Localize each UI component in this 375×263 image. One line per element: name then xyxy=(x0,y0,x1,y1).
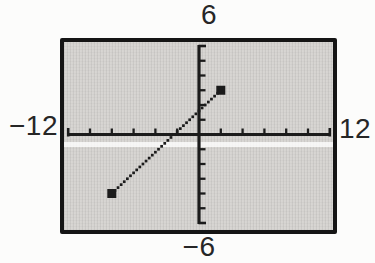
segment-dot xyxy=(198,110,201,113)
segment-dot xyxy=(157,148,160,151)
segment-dot xyxy=(185,121,188,124)
segment-dot xyxy=(154,151,157,154)
segment-dot xyxy=(176,130,179,133)
ymin-label: −6 xyxy=(175,233,223,261)
segment-dot xyxy=(170,136,173,139)
segment-dot xyxy=(120,183,123,186)
xmin-label: −12 xyxy=(6,112,58,140)
figure: 6 −12 12 −6 xyxy=(0,0,375,263)
segment-dot xyxy=(207,101,210,104)
segment-dot xyxy=(138,166,141,169)
segment-dot xyxy=(195,113,198,116)
ymax-label: 6 xyxy=(189,1,229,29)
segment-dot xyxy=(135,169,138,172)
segment-dot xyxy=(148,157,151,160)
segment-dot xyxy=(142,163,145,166)
endpoint-marker xyxy=(216,86,225,95)
segment-dot xyxy=(204,104,207,107)
segment-dot xyxy=(179,127,182,130)
segment-dot xyxy=(191,115,194,118)
endpoint-marker xyxy=(107,189,116,198)
segment-dot xyxy=(117,186,120,189)
segment-dot xyxy=(163,142,166,145)
segment-dot xyxy=(167,139,170,142)
segment-dot xyxy=(160,145,163,148)
xmax-label: 12 xyxy=(339,115,375,143)
segment-dot xyxy=(123,180,126,183)
segment-dot xyxy=(132,172,135,175)
plot-canvas xyxy=(64,42,333,230)
calculator-screen xyxy=(60,38,337,234)
segment-dot xyxy=(173,133,176,136)
segment-dot xyxy=(213,95,216,98)
segment-dot xyxy=(188,118,191,121)
segment-dot xyxy=(129,174,132,177)
segment-dot xyxy=(201,107,204,110)
segment-dot xyxy=(126,177,129,180)
segment-dot xyxy=(145,160,148,163)
segment-dot xyxy=(210,98,213,101)
segment-dot xyxy=(151,154,154,157)
segment-dot xyxy=(182,124,185,127)
